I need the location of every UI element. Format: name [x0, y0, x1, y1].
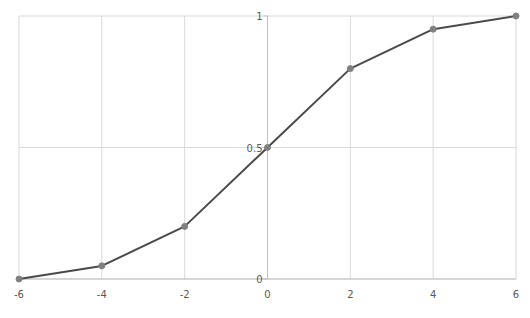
x-tick-label: -2 — [180, 289, 190, 300]
data-point-marker — [347, 66, 353, 72]
x-tick-label: 2 — [347, 289, 353, 300]
y-tick-label: 1 — [256, 11, 262, 22]
x-tick-label: 4 — [430, 289, 436, 300]
x-tick-label: 6 — [513, 289, 519, 300]
data-point-marker — [513, 13, 519, 19]
y-tick-label: 0.5 — [247, 143, 263, 154]
x-tick-label: 0 — [264, 289, 270, 300]
data-point-marker — [430, 26, 436, 32]
x-tick-label: -4 — [97, 289, 107, 300]
y-axis-tick-labels: 00.51 — [247, 11, 263, 285]
data-point-marker — [16, 276, 22, 282]
data-point-marker — [182, 223, 188, 229]
x-axis-tick-labels: -6-4-20246 — [14, 289, 519, 300]
data-point-marker — [265, 145, 271, 151]
y-tick-label: 0 — [256, 274, 262, 285]
data-point-marker — [99, 263, 105, 269]
line-chart: -6-4-20246 00.51 — [0, 0, 530, 318]
x-tick-label: -6 — [14, 289, 24, 300]
